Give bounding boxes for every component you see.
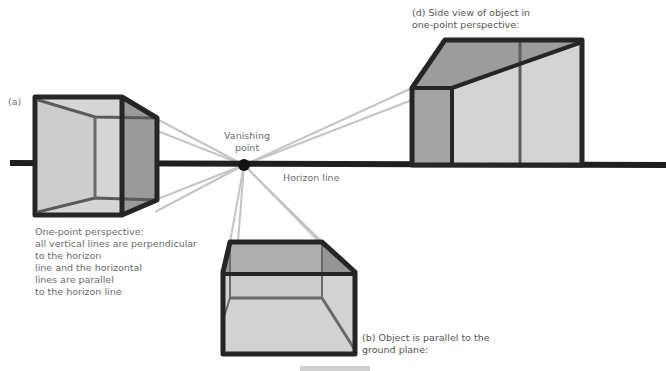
label-d: (d) Side view of object in one-point per… (412, 7, 530, 31)
label-b: (b) Object is parallel to the ground pla… (362, 332, 490, 356)
box-b (223, 242, 355, 354)
vanishing-point-dot (238, 159, 250, 171)
truncated-caption (300, 366, 370, 371)
label-a: (a) (8, 96, 21, 108)
label-horizon-line: Horizon line (283, 172, 340, 184)
perspective-diagram (0, 0, 666, 371)
cube-a (35, 97, 157, 215)
object-d (412, 38, 582, 165)
label-vanishing-point: Vanishing point (222, 130, 272, 154)
description-text: One-point perspective: all vertical line… (35, 226, 197, 298)
